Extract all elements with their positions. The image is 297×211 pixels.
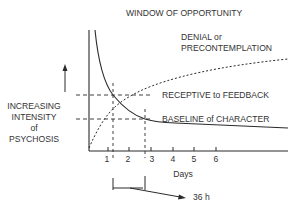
tick-label-4: 4: [171, 154, 176, 164]
tick-label-6: 6: [214, 154, 219, 164]
up-arrow-icon: [63, 64, 68, 92]
window-duration-label: 36 h: [193, 192, 210, 202]
receptive-label: RECEPTIVE to FEEDBACK: [162, 90, 269, 100]
y-axis-label-line3: of: [30, 123, 38, 133]
tick-label-3: 3: [150, 154, 155, 164]
window-of-opportunity-diagram: WINDOW OF OPPORTUNITY DENIAL or PRECONTE…: [0, 0, 297, 211]
baseline-label: BASELINE of CHARACTER: [162, 114, 269, 124]
window-bracket: [113, 176, 145, 190]
x-axis-ticks: [108, 147, 216, 151]
x-axis-label: Days: [173, 169, 193, 179]
right-arrow-icon: [130, 188, 186, 200]
diagram-title: WINDOW OF OPPORTUNITY: [126, 8, 243, 18]
denial-label-line1: DENIAL or: [181, 32, 222, 42]
tick-label-5: 5: [192, 154, 197, 164]
denial-label-line2: PRECONTEMPLATION: [181, 43, 272, 53]
denial-curve: [89, 59, 288, 148]
tick-label-1: 1: [105, 154, 110, 164]
y-axis-label-line2: INTENSITY: [12, 112, 57, 122]
y-axis-label-line1: INCREASING: [7, 101, 61, 111]
y-axis-label-line4: PSYCHOSIS: [9, 134, 59, 144]
tick-label-2: 2: [126, 154, 131, 164]
